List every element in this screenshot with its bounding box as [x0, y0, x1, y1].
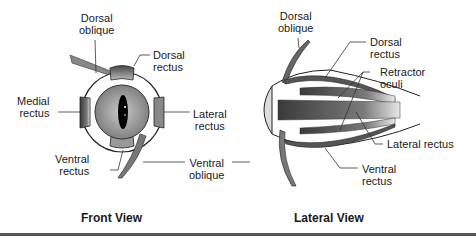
- bottom-rule: [0, 233, 476, 236]
- front-lateral-rectus-label: Lateral rectus: [193, 108, 227, 132]
- label-line: Dorsal: [370, 36, 402, 48]
- front-dorsal-oblique-label: Dorsal oblique: [79, 12, 114, 36]
- eye-muscle-diagram: [0, 0, 476, 241]
- front-medial-rectus-label: Medial rectus: [17, 95, 49, 119]
- label-line: Medial: [17, 95, 49, 107]
- label-line: oblique: [278, 22, 313, 34]
- front-ventral-rectus-label: Ventral rectus: [55, 153, 89, 177]
- label-line: rectus: [153, 61, 185, 73]
- front-view-title: Front View: [81, 211, 142, 225]
- label-line: rectus: [193, 120, 227, 132]
- front-ventral-oblique-label: Ventral oblique: [189, 157, 224, 181]
- lateral-dorsal-rectus-label: Dorsal rectus: [370, 36, 402, 60]
- label-line: Dorsal: [153, 49, 185, 61]
- label-line: Ventral: [189, 157, 224, 169]
- label-line: rectus: [55, 165, 89, 177]
- lateral-lateral-rectus-label: Lateral rectus: [387, 138, 454, 150]
- lateral-dorsal-oblique-label: Dorsal oblique: [278, 10, 313, 34]
- label-line: Ventral: [362, 163, 396, 175]
- label-line: Dorsal: [79, 12, 114, 24]
- label-line: oblique: [189, 169, 224, 181]
- label-line: rectus: [370, 48, 402, 60]
- label-line: Ventral: [55, 153, 89, 165]
- label-line: rectus: [362, 175, 396, 187]
- lateral-ventral-rectus-label: Ventral rectus: [362, 163, 396, 187]
- label-line: oculi: [380, 78, 425, 90]
- lateral-view-eye: [264, 40, 420, 186]
- label-line: Retractor: [380, 66, 425, 78]
- label-line: Lateral: [193, 108, 227, 120]
- lateral-view-title: Lateral View: [294, 211, 364, 225]
- label-line: oblique: [79, 24, 114, 36]
- label-line: Dorsal: [278, 10, 313, 22]
- front-dorsal-rectus-label: Dorsal rectus: [153, 49, 185, 73]
- label-line: rectus: [17, 107, 49, 119]
- lateral-retractor-oculi-label: Retractor oculi: [380, 66, 425, 90]
